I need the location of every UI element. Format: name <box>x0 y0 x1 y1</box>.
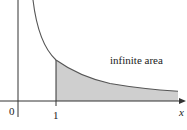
tick-label-1: 1 <box>53 109 59 121</box>
x-axis-label: x <box>178 106 184 118</box>
origin-label: 0 <box>9 105 15 117</box>
hyperbola-area-diagram: 0 1 x infinite area <box>0 0 187 130</box>
shaded-infinite-area <box>56 60 178 101</box>
annotation-label: infinite area <box>110 54 163 66</box>
x-axis-arrow-icon <box>179 98 186 104</box>
curve-1-over-x <box>33 0 178 91</box>
